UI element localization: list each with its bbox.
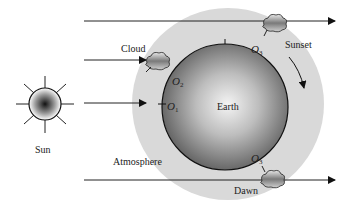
sunset-label: Sunset [285, 39, 312, 50]
earth-atmosphere-diagram: Cloud Sunset Earth Sun Atmosphere Dawn O… [0, 0, 340, 207]
dawn-label: Dawn [234, 185, 258, 196]
cloud-label: Cloud [121, 43, 145, 54]
sun-icon [16, 76, 74, 133]
sun-label: Sun [35, 144, 51, 155]
atmosphere-label: Atmosphere [113, 156, 162, 167]
earth-label: Earth [217, 101, 239, 112]
